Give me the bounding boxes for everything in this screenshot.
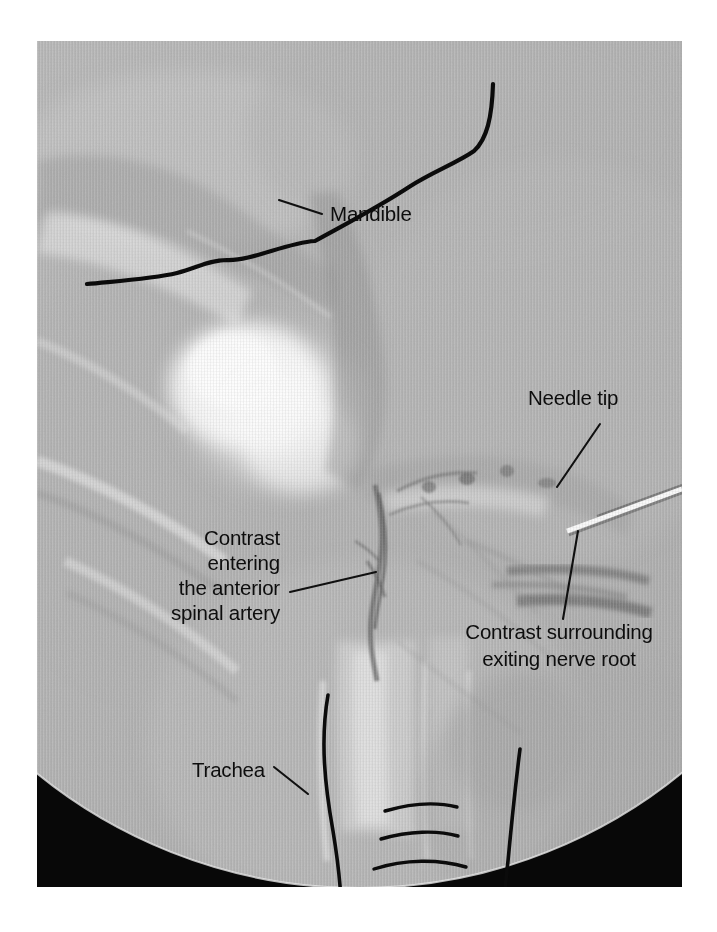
annotation-label-contrast-exiting-nerve-root: Contrast surroundingexiting nerve root: [465, 620, 652, 670]
annotation-label-mandible: Mandible: [330, 202, 412, 225]
annotation-line: spinal artery: [171, 601, 281, 624]
annotation-line: Needle tip: [528, 386, 618, 409]
annotation-line: Mandible: [330, 202, 412, 225]
annotation-text-layer: MandibleNeedle tipContrastenteringthe an…: [0, 0, 717, 932]
annotation-line: Contrast: [204, 526, 280, 549]
annotation-line: Trachea: [192, 758, 266, 781]
annotation-line: Contrast surrounding: [465, 620, 652, 643]
annotation-line: entering: [208, 551, 280, 574]
fluoroscopy-figure: MandibleNeedle tipContrastenteringthe an…: [0, 0, 717, 932]
annotation-label-needle-tip: Needle tip: [528, 386, 618, 409]
annotation-label-trachea: Trachea: [192, 758, 266, 781]
annotation-line: exiting nerve root: [482, 647, 636, 670]
annotation-label-contrast-anterior-spinal-artery: Contrastenteringthe anteriorspinal arter…: [171, 526, 281, 624]
annotation-line: the anterior: [179, 576, 281, 599]
